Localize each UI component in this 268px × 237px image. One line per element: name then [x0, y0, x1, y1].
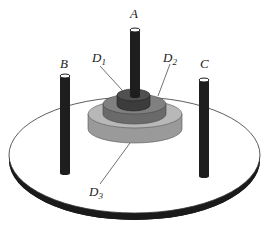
diagram-canvas: A B C D1 D2 D3 [0, 0, 268, 237]
peg-b [60, 74, 70, 175]
peg-a [130, 28, 140, 98]
leader-d2 [158, 64, 170, 96]
tower-of-hanoi-diagram: A B C D1 D2 D3 [0, 0, 268, 237]
label-peg-a: A [129, 6, 138, 21]
label-disk-d2: D2 [162, 50, 177, 67]
label-disk-d1: D1 [91, 50, 106, 67]
leader-d1 [100, 66, 122, 90]
peg-c [199, 78, 209, 178]
label-peg-c: C [200, 56, 209, 71]
label-peg-b: B [60, 56, 68, 71]
